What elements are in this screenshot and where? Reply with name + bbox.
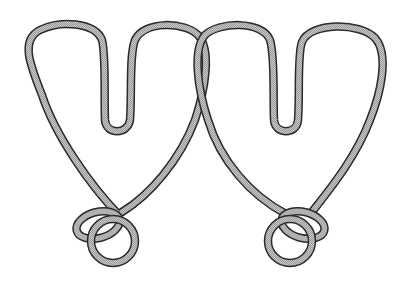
left-wire-loop	[29, 24, 206, 214]
right-wire-loop	[198, 25, 383, 214]
